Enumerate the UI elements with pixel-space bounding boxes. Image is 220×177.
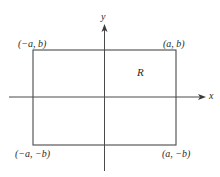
corner-label-bottom-right: (a, −b) [162, 149, 190, 159]
corner-label-top-right: (a, b) [163, 39, 185, 49]
x-axis-label: x [209, 91, 213, 101]
corner-label-bottom-left: (−a, −b) [15, 149, 50, 159]
region-label: R [137, 67, 144, 78]
y-axis-label: y [101, 12, 105, 22]
corner-label-top-left: (−a, b) [18, 39, 46, 49]
